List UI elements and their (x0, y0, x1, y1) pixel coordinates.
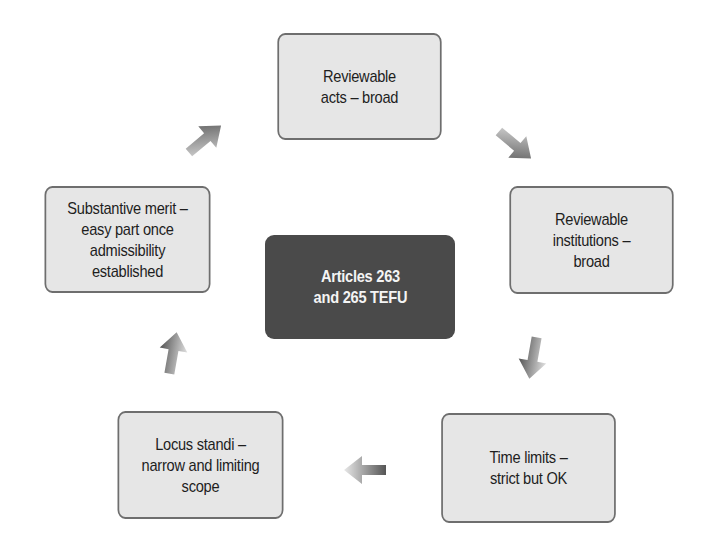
arrow-down-right-icon (490, 121, 540, 169)
arrow-up-right-icon (180, 115, 230, 163)
node-substantive-merit: Substantive merit – easy part once admis… (45, 186, 211, 293)
node-label: Reviewable acts – broad (321, 66, 398, 108)
center-label: Articles 263 and 265 TEFU (313, 266, 407, 308)
node-label: Locus standi – narrow and limiting scope (142, 434, 260, 497)
node-reviewable-acts: Reviewable acts – broad (277, 33, 441, 140)
arrow-up-icon (156, 330, 191, 376)
node-label: Time limits – strict but OK (489, 447, 567, 489)
arrow-left-icon (344, 456, 386, 484)
node-reviewable-institutions: Reviewable institutions – broad (509, 186, 673, 294)
arrow-down-icon (516, 335, 551, 381)
node-label: Substantive merit – easy part once admis… (67, 198, 187, 282)
node-label: Reviewable institutions – broad (553, 209, 631, 272)
node-locus-standi: Locus standi – narrow and limiting scope (118, 411, 284, 519)
node-time-limits: Time limits – strict but OK (441, 413, 616, 523)
center-node: Articles 263 and 265 TEFU (265, 235, 455, 339)
